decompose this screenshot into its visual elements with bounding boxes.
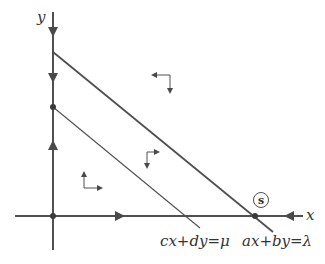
steady-state-label: s: [258, 194, 264, 207]
origin-point: [50, 213, 56, 219]
region-arrow-lower: [81, 171, 103, 191]
line-cx-dy-mu: [53, 107, 200, 228]
y-intercept-point: [50, 104, 56, 110]
line-mu-label: cx+dy=μ: [160, 232, 230, 250]
line-ax-by-lambda: [53, 52, 273, 232]
arrow-down-icon: [48, 27, 58, 37]
steady-state-point: [252, 213, 258, 219]
phase-diagram: s y x cx+dy=μ ax+by=λ: [0, 0, 325, 264]
arrow-down-icon: [48, 73, 58, 83]
x-axis-label: x: [306, 206, 315, 224]
arrow-up-icon: [48, 140, 58, 150]
arrow-left-icon: [284, 211, 294, 221]
line-lambda-label: ax+by=λ: [242, 232, 312, 250]
region-arrow-middle: [144, 149, 160, 169]
arrow-right-icon: [115, 211, 125, 221]
region-arrow-upper: [151, 72, 173, 94]
y-axis-label: y: [36, 8, 46, 26]
